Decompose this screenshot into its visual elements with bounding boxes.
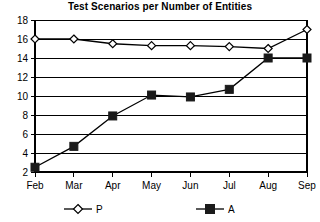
data-point-marker-open-diamond [264, 45, 272, 53]
data-point-marker-open-diamond [186, 42, 194, 50]
chart-plot-area: 24681012141618 FebMarAprMayJunJulAugSep … [0, 0, 320, 222]
data-point-marker-filled-square [186, 93, 194, 101]
y-tick-label: 6 [22, 129, 28, 140]
y-tick-label: 10 [17, 91, 29, 102]
series-line-A [35, 58, 307, 167]
y-tick-label: 8 [22, 110, 28, 121]
data-point-marker-filled-square [148, 91, 156, 99]
y-tick-label: 16 [17, 34, 29, 45]
x-tick-label: Aug [259, 180, 277, 191]
y-tick-label: 4 [22, 148, 28, 159]
data-point-marker-open-diamond [70, 35, 78, 43]
x-tick-label: Sep [298, 180, 316, 191]
chart-legend: PA [64, 204, 235, 215]
data-point-marker-open-diamond [109, 40, 117, 48]
data-point-marker-open-diamond [31, 35, 39, 43]
chart-container: Test Scenarios per Number of Entities 24… [0, 0, 320, 222]
data-point-marker-open-diamond [303, 26, 311, 34]
x-tick-label: Feb [26, 180, 44, 191]
data-point-marker-filled-square [70, 142, 78, 150]
x-tick-label: Mar [65, 180, 83, 191]
x-tick-label: May [142, 180, 161, 191]
data-point-marker-filled-square [225, 85, 233, 93]
data-series [31, 26, 311, 172]
data-point-marker-filled-square [109, 112, 117, 120]
legend-label-P: P [96, 204, 103, 215]
data-point-marker-filled-square [206, 205, 215, 214]
y-tick-label: 12 [17, 72, 29, 83]
y-tick-label: 14 [17, 53, 29, 64]
data-point-marker-filled-square [303, 54, 311, 62]
y-tick-label: 2 [22, 167, 28, 178]
data-point-marker-filled-square [264, 54, 272, 62]
y-tick-label: 18 [17, 15, 29, 26]
x-tick-label: Jul [223, 180, 236, 191]
data-point-marker-filled-square [31, 163, 39, 171]
data-point-marker-open-diamond [225, 43, 233, 51]
x-axis: FebMarAprMayJunJulAugSep [26, 172, 316, 191]
x-tick-label: Jun [182, 180, 198, 191]
data-point-marker-open-diamond [148, 42, 156, 50]
legend-label-A: A [228, 204, 235, 215]
data-point-marker-open-diamond [74, 205, 83, 214]
x-tick-label: Apr [105, 180, 121, 191]
